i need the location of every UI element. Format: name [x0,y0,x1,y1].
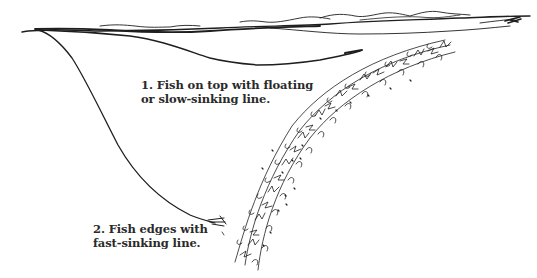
water-surface [22,11,530,34]
fly-fishing-diagram: 1. Fish on top with floating or slow-sin… [0,0,537,278]
floating-line [40,30,362,65]
caption-line: 2. Fish edges with [93,222,208,236]
caption-line: or slow-sinking line. [141,92,313,106]
caption-sinking-line: 2. Fish edges with fast-sinking line. [93,222,208,250]
sinking-line [38,30,226,235]
weed-bed [235,40,455,270]
caption-floating-line: 1. Fish on top with floating or slow-sin… [141,78,313,106]
diagram-illustration [0,0,537,278]
caption-line: 1. Fish on top with floating [141,78,313,92]
caption-line: fast-sinking line. [93,236,208,250]
